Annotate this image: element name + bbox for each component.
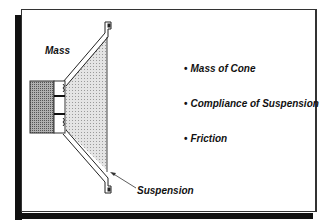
bullet-icon: • bbox=[184, 98, 188, 109]
list-item: •Compliance of Suspension bbox=[184, 98, 319, 133]
bullet-text: Friction bbox=[191, 133, 228, 144]
suspension-label: Suspension bbox=[137, 185, 194, 196]
suspension-arrow bbox=[110, 172, 136, 188]
bullet-text: Mass of Cone bbox=[191, 63, 256, 74]
magnet-assembly bbox=[30, 81, 65, 133]
speaker-cone bbox=[66, 37, 107, 172]
list-item: •Friction bbox=[184, 133, 319, 168]
property-list: •Mass of Cone •Compliance of Suspension … bbox=[184, 63, 319, 168]
bullet-icon: • bbox=[184, 63, 188, 74]
bullet-text: Compliance of Suspension bbox=[191, 98, 319, 109]
bullet-icon: • bbox=[184, 133, 188, 144]
mass-label: Mass bbox=[45, 45, 70, 56]
suspension-surround-top bbox=[105, 22, 111, 37]
list-item: •Mass of Cone bbox=[184, 63, 319, 98]
suspension-surround-bottom bbox=[105, 178, 111, 193]
